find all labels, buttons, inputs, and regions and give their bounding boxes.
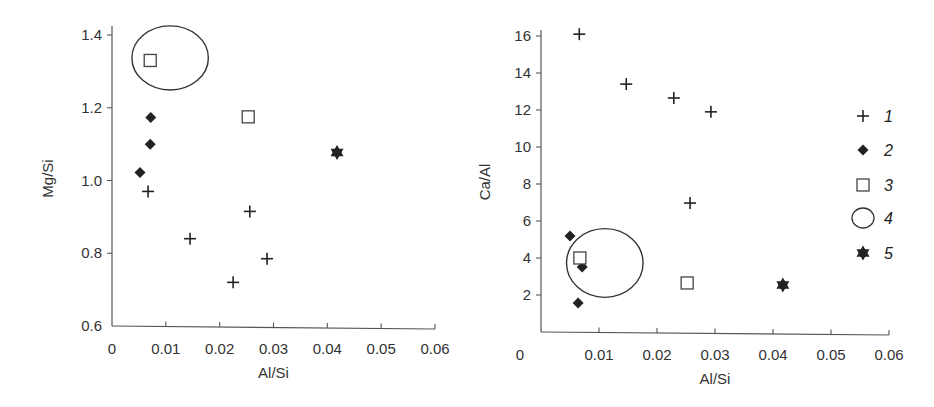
legend-label: 2 xyxy=(883,142,893,159)
x-tick-label: 0.05 xyxy=(367,340,396,357)
y-tick-label: 6 xyxy=(523,212,531,229)
chart-mg-si-vs-al-si: 00.010.020.030.040.050.060.60.81.01.21.4… xyxy=(39,26,450,381)
x-tick-label: 0.03 xyxy=(700,346,729,363)
y-tick-label: 0.8 xyxy=(81,244,102,261)
x-tick-label: 0.01 xyxy=(584,346,613,363)
y-tick-label: 0.6 xyxy=(81,317,102,334)
data-point-series-1-plus xyxy=(705,106,717,118)
legend-label: 4 xyxy=(884,210,893,227)
data-point-series-1-plus xyxy=(668,92,680,104)
x-tick-label: 0.02 xyxy=(642,346,671,363)
legend-marker-square-icon xyxy=(857,179,869,191)
data-point-series-1-plus xyxy=(684,197,696,209)
x-tick-label: 0.06 xyxy=(874,346,903,363)
legend-item-2: 2 xyxy=(858,142,894,159)
data-point-series-3-square xyxy=(242,111,254,123)
legend-item-1: 1 xyxy=(857,108,893,125)
legend-marker-plus-icon xyxy=(857,110,869,122)
chart-ca-al-vs-al-si: 00.010.020.030.040.050.06246810121416Al/… xyxy=(476,27,904,387)
legend-item-4: 4 xyxy=(852,208,893,228)
x-axis-label: Al/Si xyxy=(700,370,731,387)
y-tick-label: 8 xyxy=(523,175,531,192)
data-point-series-5-star xyxy=(331,145,344,160)
x-tick-label: 0.05 xyxy=(816,346,845,363)
y-tick-label: 16 xyxy=(514,27,531,44)
data-point-series-2-diamond xyxy=(565,230,576,241)
data-point-series-3-square xyxy=(681,277,693,289)
y-tick-label: 14 xyxy=(514,64,531,81)
legend: 12345 xyxy=(852,108,893,262)
figure: 00.010.020.030.040.050.060.60.81.01.21.4… xyxy=(0,0,934,407)
data-point-series-1-plus xyxy=(620,78,632,90)
data-point-series-1-plus xyxy=(261,253,273,265)
x-tick-label: 0.01 xyxy=(151,340,180,357)
data-point-series-1-plus xyxy=(184,233,196,245)
data-point-series-1-plus xyxy=(227,276,239,288)
y-tick-label: 10 xyxy=(514,138,531,155)
y-tick-label: 1.4 xyxy=(81,26,102,43)
legend-item-3: 3 xyxy=(857,177,893,194)
x-tick-label: 0.04 xyxy=(313,340,342,357)
x-tick-label: 0.04 xyxy=(758,346,787,363)
data-point-series-2-diamond xyxy=(573,297,584,308)
group-4-ellipse xyxy=(132,26,208,90)
legend-marker-star-icon xyxy=(857,246,870,261)
legend-label: 3 xyxy=(884,177,893,194)
x-tick-label: 0 xyxy=(108,340,116,357)
y-tick-label: 2 xyxy=(523,286,531,303)
legend-label: 5 xyxy=(884,245,893,262)
x-tick-label: 0 xyxy=(516,346,524,363)
data-point-series-2-diamond xyxy=(145,112,156,123)
y-tick-label: 4 xyxy=(523,249,531,266)
legend-item-5: 5 xyxy=(857,245,893,262)
y-axis-label: Ca/Al xyxy=(476,164,493,201)
x-axis-label: Al/Si xyxy=(258,364,289,381)
x-tick-label: 0.06 xyxy=(420,340,449,357)
y-tick-label: 1.0 xyxy=(81,172,102,189)
data-point-series-2-diamond xyxy=(145,139,156,150)
legend-marker-diamond-icon xyxy=(858,145,869,156)
data-point-series-5-star xyxy=(776,278,789,293)
legend-marker-ellipse-icon xyxy=(852,208,874,228)
y-tick-label: 1.2 xyxy=(81,99,102,116)
data-point-series-2-diamond xyxy=(134,167,145,178)
legend-label: 1 xyxy=(884,108,893,125)
x-tick-label: 0.02 xyxy=(205,340,234,357)
data-point-series-1-plus xyxy=(573,28,585,40)
y-tick-label: 12 xyxy=(514,101,531,118)
data-point-series-3-square xyxy=(144,54,156,66)
data-point-series-1-plus xyxy=(142,185,154,197)
y-axis-label: Mg/Si xyxy=(39,159,56,197)
x-tick-label: 0.03 xyxy=(259,340,288,357)
data-point-series-1-plus xyxy=(244,205,256,217)
data-point-series-3-square xyxy=(574,252,586,264)
